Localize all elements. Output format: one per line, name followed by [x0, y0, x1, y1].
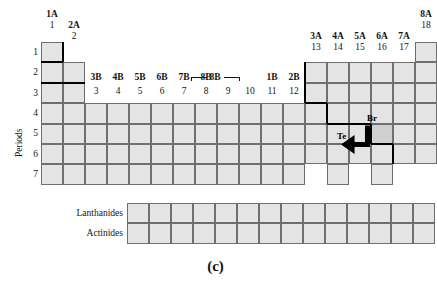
element-cell[interactable] [195, 164, 217, 184]
element-cell[interactable] [173, 103, 195, 123]
element-cell[interactable] [63, 164, 85, 184]
element-cell[interactable] [107, 144, 129, 164]
element-cell[interactable] [261, 124, 283, 144]
element-cell[interactable] [239, 164, 261, 184]
element-cell[interactable] [327, 103, 349, 123]
element-cell[interactable] [413, 223, 435, 243]
element-cell[interactable] [149, 203, 171, 223]
element-cell[interactable] [41, 124, 63, 144]
element-cell[interactable] [217, 103, 239, 123]
element-cell[interactable] [281, 203, 303, 223]
element-cell[interactable] [415, 144, 437, 164]
element-cell[interactable] [217, 124, 239, 144]
element-cell[interactable] [327, 164, 349, 184]
element-cell[interactable] [195, 103, 217, 123]
element-cell[interactable] [193, 203, 215, 223]
element-cell[interactable] [327, 83, 349, 103]
element-cell[interactable] [391, 203, 413, 223]
element-cell[interactable] [41, 42, 63, 62]
element-cell[interactable] [369, 203, 391, 223]
element-cell[interactable] [129, 124, 151, 144]
element-cell[interactable] [305, 83, 327, 103]
element-cell[interactable] [41, 144, 63, 164]
element-cell[interactable] [347, 223, 369, 243]
element-cell[interactable] [415, 124, 437, 144]
element-cell[interactable] [217, 164, 239, 184]
element-cell[interactable] [85, 164, 107, 184]
element-cell[interactable] [107, 124, 129, 144]
element-cell[interactable] [149, 223, 171, 243]
element-cell[interactable] [371, 62, 393, 82]
element-cell[interactable] [303, 203, 325, 223]
element-cell[interactable] [305, 103, 327, 123]
element-cell[interactable] [393, 103, 415, 123]
element-cell[interactable] [63, 103, 85, 123]
element-cell[interactable] [391, 223, 413, 243]
element-cell[interactable] [173, 144, 195, 164]
element-cell[interactable] [261, 103, 283, 123]
element-cell[interactable] [393, 144, 415, 164]
element-cell[interactable] [41, 103, 63, 123]
element-cell[interactable] [107, 103, 129, 123]
element-cell[interactable] [305, 144, 327, 164]
element-cell[interactable] [237, 223, 259, 243]
element-cell[interactable] [41, 164, 63, 184]
element-cell[interactable] [239, 124, 261, 144]
element-cell[interactable] [195, 124, 217, 144]
element-cell[interactable] [261, 164, 283, 184]
element-cell[interactable] [129, 164, 151, 184]
element-cell[interactable] [173, 164, 195, 184]
element-cell[interactable] [305, 124, 327, 144]
element-cell[interactable] [283, 124, 305, 144]
element-cell[interactable] [217, 144, 239, 164]
element-cell[interactable] [369, 223, 391, 243]
element-cell[interactable] [371, 83, 393, 103]
element-cell[interactable] [371, 164, 393, 184]
element-cell[interactable] [171, 203, 193, 223]
element-cell[interactable] [349, 62, 371, 82]
element-cell[interactable] [41, 62, 63, 82]
element-cell[interactable] [237, 203, 259, 223]
element-cell[interactable] [259, 223, 281, 243]
element-cell[interactable] [151, 124, 173, 144]
element-cell[interactable] [63, 62, 85, 82]
element-cell[interactable] [239, 103, 261, 123]
element-cell[interactable] [127, 223, 149, 243]
element-cell[interactable] [85, 144, 107, 164]
element-cell[interactable] [215, 223, 237, 243]
element-cell[interactable] [305, 62, 327, 82]
element-cell[interactable] [173, 124, 195, 144]
element-cell[interactable] [127, 203, 149, 223]
element-cell[interactable] [283, 144, 305, 164]
element-cell[interactable] [85, 103, 107, 123]
element-cell[interactable] [215, 203, 237, 223]
element-cell[interactable] [393, 83, 415, 103]
element-cell[interactable] [129, 144, 151, 164]
element-cell[interactable] [281, 223, 303, 243]
element-cell[interactable] [283, 164, 305, 184]
element-cell[interactable] [261, 144, 283, 164]
element-cell[interactable] [325, 203, 347, 223]
element-cell[interactable] [151, 164, 173, 184]
element-cell[interactable] [415, 62, 437, 82]
element-cell[interactable] [151, 103, 173, 123]
element-cell[interactable] [259, 203, 281, 223]
element-cell[interactable] [63, 83, 85, 103]
element-cell[interactable] [393, 124, 415, 144]
element-cell[interactable] [327, 62, 349, 82]
element-cell[interactable] [41, 83, 63, 103]
element-cell[interactable] [239, 144, 261, 164]
element-cell[interactable] [151, 144, 173, 164]
element-cell[interactable] [63, 144, 85, 164]
element-cell[interactable] [129, 103, 151, 123]
element-cell[interactable] [349, 83, 371, 103]
element-cell[interactable] [347, 203, 369, 223]
element-cell[interactable] [415, 103, 437, 123]
element-cell[interactable] [415, 83, 437, 103]
element-cell[interactable] [415, 42, 437, 62]
element-cell[interactable] [171, 223, 193, 243]
element-cell[interactable] [393, 62, 415, 82]
element-cell[interactable] [303, 223, 325, 243]
element-cell[interactable] [325, 223, 347, 243]
element-cell[interactable] [107, 164, 129, 184]
